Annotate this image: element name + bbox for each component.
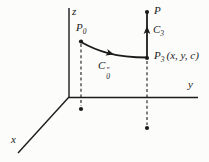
z-axis-label: z — [72, 5, 76, 17]
curve-c0-path — [81, 42, 147, 58]
p0-point-label: P0 — [76, 21, 86, 38]
coordinate-diagram: z y x P0 P C3 P3(x, y, c) C″0 — [0, 0, 209, 162]
p-point-dot — [145, 10, 149, 14]
p3-point-dot — [145, 56, 149, 60]
y-axis-label: y — [188, 78, 193, 90]
diagram-canvas — [0, 0, 209, 162]
p-point-label: P — [154, 4, 161, 16]
x-axis-line — [18, 97, 69, 153]
c0-subscript: 0 — [106, 74, 110, 80]
segment-c3-label: C3 — [153, 23, 164, 40]
curve-c0-label: C″0 — [98, 59, 110, 80]
p0-point-dot — [79, 39, 83, 43]
p0-projection-dot — [79, 107, 83, 111]
p3-point-label: P3(x, y, c) — [154, 49, 199, 66]
p3-projection-dot — [145, 126, 149, 130]
x-axis-label: x — [11, 133, 16, 145]
